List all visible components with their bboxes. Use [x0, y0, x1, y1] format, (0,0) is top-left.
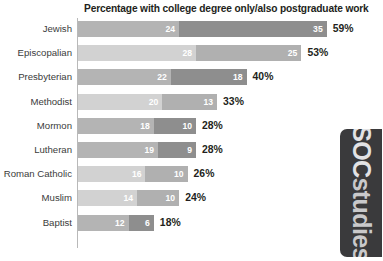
category-label: Episcopalian — [0, 43, 72, 63]
category-label: Jewish — [0, 19, 72, 39]
chart-row: Episcopalian282553% — [0, 43, 383, 63]
bar-segment-value: 10 — [166, 190, 176, 206]
category-label: Baptist — [0, 213, 72, 233]
bar-total-label: 24% — [185, 188, 206, 208]
bar-segment-value: 13 — [204, 94, 214, 110]
socstudies-logo-badge: SOCstudies — [340, 129, 382, 257]
chart-row: Muslim141024% — [0, 188, 383, 208]
bar-segment-value: 20 — [149, 94, 159, 110]
chart-title: Percentage with college degree only/also… — [84, 2, 378, 16]
bar-segment-degree-only: 19 — [78, 142, 158, 158]
bar-segment-postgraduate: 25 — [196, 45, 301, 61]
chart-row: Presbyterian221840% — [0, 67, 383, 87]
stacked-bar: 199 — [78, 142, 196, 158]
bar-segment-degree-only: 12 — [78, 215, 129, 231]
bar-segment-value: 22 — [157, 69, 167, 85]
chart-row: Baptist12618% — [0, 213, 383, 233]
bar-segment-degree-only: 22 — [78, 69, 171, 85]
stacked-bar: 2435 — [78, 21, 327, 37]
bar-segment-postgraduate: 6 — [129, 215, 154, 231]
chart-row: Lutheran19928% — [0, 140, 383, 160]
bar-segment-postgraduate: 13 — [162, 94, 217, 110]
bar-segment-value: 9 — [187, 142, 192, 158]
chart-row: Mormon181028% — [0, 116, 383, 136]
bar-segment-postgraduate: 10 — [154, 118, 196, 134]
chart-row: Jewish243559% — [0, 19, 383, 39]
bar-segment-postgraduate: 18 — [171, 69, 247, 85]
bar-segment-degree-only: 20 — [78, 94, 162, 110]
bar-segment-degree-only: 18 — [78, 118, 154, 134]
bar-segment-value: 16 — [132, 166, 142, 182]
logo-suffix: studies — [348, 178, 376, 257]
bar-segment-value: 14 — [123, 190, 133, 206]
bar-segment-degree-only: 16 — [78, 166, 145, 182]
bar-segment-value: 10 — [174, 166, 184, 182]
category-label: Mormon — [0, 116, 72, 136]
bar-segment-postgraduate: 10 — [137, 190, 179, 206]
bar-segment-degree-only: 28 — [78, 45, 196, 61]
bar-segment-value: 24 — [166, 21, 176, 37]
bar-segment-value: 19 — [145, 142, 155, 158]
bar-total-label: 40% — [253, 67, 274, 87]
socstudies-logo-text: SOCstudies — [349, 129, 374, 257]
stacked-bar: 126 — [78, 215, 154, 231]
category-label: Muslim — [0, 188, 72, 208]
stacked-bar: 1610 — [78, 166, 188, 182]
logo-prefix: SOC — [348, 129, 376, 178]
bar-total-label: 28% — [202, 116, 223, 136]
bar-segment-value: 25 — [288, 45, 298, 61]
bar-segment-value: 12 — [115, 215, 125, 231]
bar-segment-degree-only: 14 — [78, 190, 137, 206]
category-label: Presbyterian — [0, 67, 72, 87]
bar-segment-postgraduate: 35 — [179, 21, 327, 37]
stacked-bar: 1410 — [78, 190, 179, 206]
chart-row: Methodist201333% — [0, 92, 383, 112]
bar-total-label: 33% — [223, 92, 244, 112]
bar-segment-value: 6 — [145, 215, 150, 231]
bar-segment-degree-only: 24 — [78, 21, 179, 37]
bar-segment-value: 10 — [182, 118, 192, 134]
bar-total-label: 53% — [307, 43, 328, 63]
bar-segment-value: 28 — [182, 45, 192, 61]
bar-total-label: 26% — [194, 164, 215, 184]
stacked-bar: 2825 — [78, 45, 301, 61]
chart-row: Roman Catholic161026% — [0, 164, 383, 184]
bar-segment-value: 18 — [140, 118, 150, 134]
bar-segment-value: 18 — [233, 69, 243, 85]
category-label: Methodist — [0, 92, 72, 112]
bar-segment-value: 35 — [313, 21, 323, 37]
stacked-bar: 2218 — [78, 69, 247, 85]
bar-segment-postgraduate: 10 — [145, 166, 187, 182]
chart-container: Percentage with college degree only/also… — [0, 0, 383, 261]
category-label: Lutheran — [0, 140, 72, 160]
stacked-bar: 1810 — [78, 118, 196, 134]
bar-segment-postgraduate: 9 — [158, 142, 196, 158]
bar-total-label: 18% — [160, 213, 181, 233]
stacked-bar: 2013 — [78, 94, 217, 110]
bar-total-label: 28% — [202, 140, 223, 160]
bar-total-label: 59% — [333, 19, 354, 39]
category-label: Roman Catholic — [0, 164, 72, 184]
plot-area: Jewish243559%Episcopalian282553%Presbyte… — [0, 18, 383, 248]
